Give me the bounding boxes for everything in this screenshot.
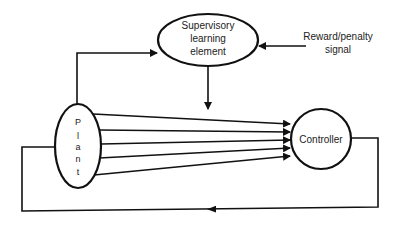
plant-letter-n: n [75, 154, 80, 164]
plant-to-controller-arrows [93, 114, 290, 175]
supervisory-label-line2: learning [190, 33, 226, 44]
reward-label-line2: signal [325, 44, 351, 55]
diagram-canvas: Supervisory learning element Reward/pena… [0, 0, 400, 228]
supervisory-label-line1: Supervisory [182, 20, 235, 31]
plant-to-supervisory-arrow [77, 53, 157, 104]
supervisory-label-line3: element [190, 46, 226, 57]
plant-letter-a: a [75, 142, 80, 152]
controller-node: Controller [291, 109, 351, 169]
plant-letter-p: P [75, 117, 81, 127]
controller-label: Controller [299, 134, 343, 145]
reward-penalty-signal-label: Reward/penalty signal [303, 31, 372, 55]
feedback-arrow-head [207, 206, 216, 213]
plant-letter-l: l [77, 131, 79, 141]
reward-label-line1: Reward/penalty [303, 31, 372, 42]
supervisory-learning-element-node: Supervisory learning element [158, 14, 258, 66]
